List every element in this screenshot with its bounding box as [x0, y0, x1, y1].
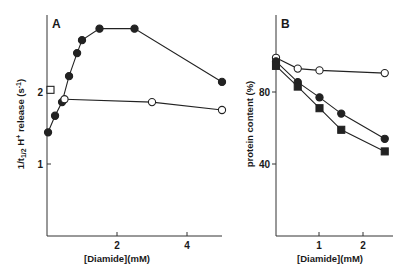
- series-line-filled-circles: [48, 29, 222, 133]
- data-point-open-circles-marker: [218, 106, 225, 113]
- data-point-open-circles-marker: [381, 70, 388, 77]
- data-point-filled-circles-marker: [96, 25, 103, 32]
- data-point-filled-squares-marker: [294, 83, 301, 90]
- data-point-open-circles-marker: [148, 98, 155, 105]
- data-point-open-circles-marker: [61, 96, 68, 103]
- panel-a-y-label: 1/t1/2 H+ release (s-1): [15, 79, 27, 169]
- data-point-filled-circles-marker: [65, 73, 72, 80]
- panel-b-y-label: protein content (%): [244, 81, 255, 168]
- data-point-filled-circles-marker: [78, 37, 85, 44]
- panel-b-letter: B: [281, 17, 290, 31]
- panel-b-xtick-label-1: 1: [316, 240, 322, 251]
- panel-a-xtick-label-4: 4: [184, 240, 190, 251]
- series-line-open-circles: [276, 58, 385, 73]
- panel-b-ytick-label-80: 80: [259, 87, 271, 98]
- data-point-filled-squares-marker: [316, 105, 323, 112]
- data-point-filled-circles-marker: [74, 50, 81, 57]
- data-point-filled-squares-marker: [338, 126, 345, 133]
- data-point-filled-squares-marker: [273, 62, 280, 69]
- data-point-filled-circles-marker: [51, 112, 58, 119]
- data-point-open-circles-marker: [294, 65, 301, 72]
- data-point-filled-circles-marker: [218, 78, 225, 85]
- data-point-open-circles-marker: [316, 67, 323, 74]
- data-point-open-square-marker: [47, 86, 54, 93]
- data-point-filled-circles-marker: [131, 25, 138, 32]
- panel-a-plot-area: [44, 25, 225, 136]
- panel-b-x-label: [Diamide](mM): [297, 253, 363, 264]
- panel-a: 1 2 2 4 A [Diamide](mM) 1/t1/2 H+ releas…: [15, 15, 226, 264]
- series-line-filled-squares: [276, 66, 385, 151]
- data-point-filled-circles-marker: [381, 135, 388, 142]
- panel-a-xtick-label-2: 2: [114, 240, 120, 251]
- panel-b: 40 80 1 2 B [Diamide](mM) protein conten…: [244, 15, 393, 264]
- panel-a-ytick-label-2: 2: [37, 87, 43, 98]
- figure: 1 2 2 4 A [Diamide](mM) 1/t1/2 H+ releas…: [0, 0, 413, 278]
- series-line-open-circles: [65, 99, 223, 110]
- data-point-filled-circles-marker: [44, 129, 51, 136]
- data-point-filled-circles-marker: [338, 110, 345, 117]
- panel-b-ytick-label-40: 40: [259, 159, 271, 170]
- panel-a-ytick-label-1: 1: [37, 159, 43, 170]
- data-point-filled-circles-marker: [316, 94, 323, 101]
- data-point-filled-squares-marker: [381, 148, 388, 155]
- series-line-filled-circles: [276, 61, 385, 138]
- panel-b-xtick-label-2: 2: [360, 240, 366, 251]
- panel-b-plot-area: [272, 54, 388, 155]
- panel-a-letter: A: [52, 17, 61, 31]
- panel-a-x-label: [Diamide](mM): [84, 253, 150, 264]
